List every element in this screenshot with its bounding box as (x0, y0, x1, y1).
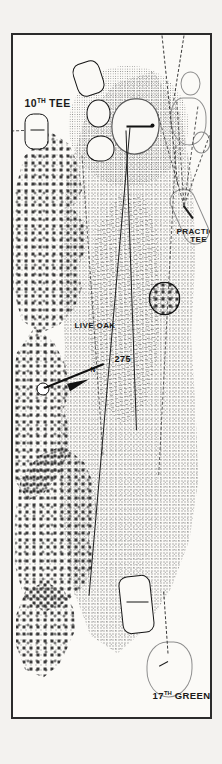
label-seventeenth-green-sup: TH (163, 689, 171, 695)
label-seventeenth-green-word: GREEN (171, 689, 210, 700)
label-seventeenth-green: 17TH GREEN (152, 689, 210, 700)
greenside-bunker-right (86, 135, 114, 161)
flagstick (126, 125, 152, 127)
tenth-tee-marker (30, 129, 44, 130)
page-background: N 275 9TH GREEN PRACTICE TEE 10TH TEE LI… (0, 0, 222, 764)
label-seventeenth-green-number: 17 (152, 689, 163, 700)
yardage-marker-275: 275 (114, 353, 131, 363)
map-frame: N 275 9TH GREEN PRACTICE TEE 10TH TEE LI… (11, 33, 212, 719)
label-practice-tee: PRACTICE TEE (176, 227, 212, 244)
tenth-tee-box (24, 113, 48, 149)
eighteenth-tee-box (117, 573, 155, 634)
label-tenth-tee-number: 10 (24, 97, 36, 109)
label-tenth-tee: 10TH TEE (24, 97, 70, 109)
ninth-green-bunker-a (180, 71, 200, 95)
label-tenth-tee-word: TEE (45, 97, 70, 109)
label-live-oak: LIVE OAK (74, 321, 115, 329)
label-practice-tee-line2: TEE (176, 235, 212, 243)
hole-cup (150, 123, 154, 127)
eighteenth-tee-marker (126, 601, 148, 602)
greenside-bunker-front (86, 99, 110, 127)
compass-north-letter: N (90, 365, 95, 372)
live-oak-tree (148, 281, 180, 315)
tenth-tee-path (11, 130, 24, 133)
label-tenth-tee-sup: TH (36, 96, 45, 103)
map-canvas: N 275 9TH GREEN PRACTICE TEE 10TH TEE LI… (13, 35, 210, 717)
